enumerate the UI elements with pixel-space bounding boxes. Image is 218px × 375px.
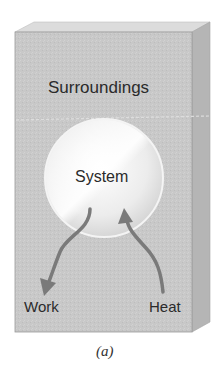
surroundings-label: Surroundings: [48, 78, 149, 98]
work-label: Work: [24, 298, 59, 315]
diagram-canvas: [0, 0, 218, 375]
box-top-face: [15, 22, 210, 32]
box-side-face: [192, 22, 210, 332]
figure-caption: (a): [96, 343, 114, 360]
heat-label: Heat: [149, 298, 181, 315]
system-label: System: [75, 168, 128, 186]
